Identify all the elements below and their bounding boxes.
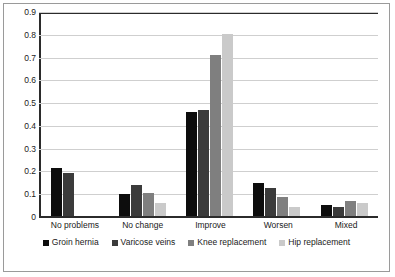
- y-axis-tick-label: 0.7: [6, 54, 36, 63]
- bar: [333, 207, 344, 216]
- y-axis-tick-label: 0.5: [6, 99, 36, 108]
- legend-label: Varicose veins: [121, 238, 176, 247]
- legend-label: Hip replacement: [288, 238, 350, 247]
- bar: [321, 205, 332, 216]
- legend-label: Groin hernia: [52, 238, 99, 247]
- legend-item: Groin hernia: [43, 238, 99, 247]
- bar: [265, 188, 276, 216]
- plot-region: 0.90.80.70.60.50.40.30.20.10: [39, 12, 378, 217]
- x-axis-category-labels: No problemsNo changeImproveWorsenMixed: [41, 220, 380, 230]
- bar: [357, 203, 368, 216]
- y-axis-tick-label: 0.6: [6, 76, 36, 85]
- bar: [289, 207, 300, 216]
- x-axis-category-label: No problems: [41, 220, 109, 230]
- bar-group: [176, 12, 243, 216]
- legend-swatch-icon: [279, 240, 285, 246]
- x-axis-category-label: Worsen: [244, 220, 312, 230]
- legend-item: Varicose veins: [112, 238, 176, 247]
- bar: [119, 194, 130, 216]
- legend-label: Knee replacement: [197, 238, 266, 247]
- gridline: [39, 217, 378, 218]
- y-axis-tick-label: 0.3: [6, 145, 36, 154]
- legend-swatch-icon: [43, 240, 49, 246]
- bar: [345, 201, 356, 216]
- y-axis-tick-label: 0.1: [6, 190, 36, 199]
- bar-group: [41, 12, 108, 216]
- bar-groups: [41, 12, 378, 216]
- legend-item: Hip replacement: [279, 238, 350, 247]
- y-axis-tick-label: 0: [6, 213, 36, 222]
- chart-frame: 0.90.80.70.60.50.40.30.20.10 No problems…: [3, 3, 390, 272]
- bar: [186, 112, 197, 216]
- bar: [63, 173, 74, 216]
- bar-group: [243, 12, 310, 216]
- bar: [198, 110, 209, 216]
- bar: [155, 203, 166, 216]
- bar: [253, 183, 264, 216]
- bar: [51, 168, 62, 216]
- legend-swatch-icon: [188, 240, 194, 246]
- y-axis-tick-label: 0.4: [6, 122, 36, 131]
- bar: [210, 55, 221, 216]
- x-axis-category-label: Improve: [177, 220, 245, 230]
- y-axis-tick-label: 0.8: [6, 31, 36, 40]
- y-axis-tick-label: 0.9: [6, 8, 36, 17]
- bar: [277, 197, 288, 216]
- chart-legend: Groin herniaVaricose veinsKnee replaceme…: [4, 238, 389, 247]
- legend-item: Knee replacement: [188, 238, 266, 247]
- bar-group: [108, 12, 175, 216]
- bar-group: [311, 12, 378, 216]
- x-axis-category-label: Mixed: [312, 220, 380, 230]
- y-axis-tick-label: 0.2: [6, 167, 36, 176]
- legend-swatch-icon: [112, 240, 118, 246]
- x-axis-category-label: No change: [109, 220, 177, 230]
- bar: [222, 34, 233, 216]
- bar: [131, 185, 142, 216]
- bar: [143, 193, 154, 216]
